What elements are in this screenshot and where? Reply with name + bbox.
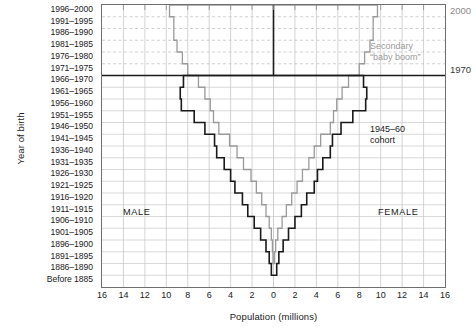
y-axis-tick-label: 1906–1910 [50,215,93,227]
y-axis-tick-label: 1941–1945 [50,133,93,145]
y-axis-tick-label: 1971–1975 [50,63,93,75]
y-axis-tick-label: 1926–1930 [50,168,93,180]
reference-label-2000: 2000 [450,5,471,16]
x-axis-tick-label: 6 [335,290,340,300]
x-axis-tick-label: 2 [250,290,255,300]
y-axis-tick-label: 1986–1990 [50,27,93,39]
annotation-1945-60-cohort: 1945–60 cohort [370,124,405,146]
x-axis-tick-label: 16 [97,290,107,300]
y-axis-tick-label: 1931–1935 [50,157,93,169]
y-axis-tick-label: 1936–1940 [50,145,93,157]
x-axis-tick-label: 2 [292,290,297,300]
y-axis-tick-label: 1951–1955 [50,110,93,122]
y-axis-tick-label: 1976–1980 [50,51,93,63]
y-axis-tick-label: 1996–2000 [50,4,93,16]
x-axis-tick-label: 8 [357,290,362,300]
x-axis-tick-labels: 1614121086420246810121416 [101,290,446,304]
y-axis-tick-label: 1901–1905 [50,227,93,239]
annotation-secondary-baby-boom: Secondary “baby boom” [370,41,421,63]
x-axis-tick-label: 14 [419,290,429,300]
x-axis-tick-label: 10 [376,290,386,300]
x-axis-tick-label: 4 [228,290,233,300]
x-axis-tick-label: 12 [140,290,150,300]
x-axis-tick-label: 4 [314,290,319,300]
annotation-secondary-line1: Secondary [370,41,421,52]
male-label: MALE [123,207,150,217]
annotation-cohort-line2: cohort [370,135,405,146]
x-axis-tick-label: 10 [161,290,171,300]
y-axis-tick-labels: 1996–20001991–19951986–19901981–19851976… [0,4,97,288]
female-label: FEMALE [378,207,418,217]
x-axis-tick-label: 16 [440,290,450,300]
y-axis-tick-label: Before 1885 [47,274,93,286]
y-axis-tick-label: 1966–1970 [50,74,93,86]
annotation-secondary-line2: “baby boom” [370,52,421,63]
x-axis-tick-label: 6 [207,290,212,300]
x-axis-tick-label: 8 [185,290,190,300]
y-axis-tick-label: 1911–1915 [51,204,93,216]
reference-label-1970: 1970 [450,64,471,75]
y-axis-tick-label: 1961–1965 [50,86,93,98]
x-axis-title: Population (millions) [101,311,446,322]
y-axis-tick-label: 1981–1985 [50,39,93,51]
y-axis-tick-label: 1886–1890 [50,262,93,274]
y-axis-tick-label: 1956–1960 [50,98,93,110]
annotation-cohort-line1: 1945–60 [370,124,405,135]
x-axis-tick-label: 14 [118,290,128,300]
y-axis-tick-label: 1946–1950 [50,121,93,133]
x-axis-tick-label: 12 [397,290,407,300]
y-axis-tick-label: 1896–1900 [50,239,93,251]
y-axis-tick-label: 1916–1920 [50,192,93,204]
y-axis-tick-label: 1991–1995 [50,16,93,28]
y-axis-tick-label: 1891–1895 [50,251,93,263]
y-axis-tick-label: 1921–1925 [50,180,93,192]
x-axis-tick-label: 0 [271,290,276,300]
population-pyramid-figure: Year of birth 1996–20001991–19951986–199… [0,0,476,331]
